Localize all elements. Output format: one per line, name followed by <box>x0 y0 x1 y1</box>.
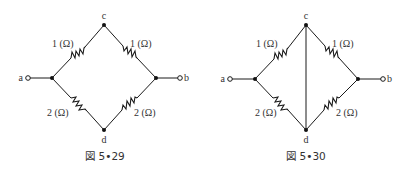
label-r-db: 2 (Ω) <box>336 107 358 119</box>
resistor-db <box>104 78 156 130</box>
figure-5-30: c a b d 1 (Ω) 1 (Ω) 2 (Ω) 2 (Ω) 図 5•30 <box>221 10 392 162</box>
resistor-db <box>306 79 358 130</box>
node-left <box>50 76 54 80</box>
resistor-cb <box>306 25 358 79</box>
label-r-cb: 1 (Ω) <box>332 38 354 50</box>
label-r-ad: 2 (Ω) <box>255 107 277 119</box>
label-d: d <box>304 134 309 145</box>
label-d: d <box>102 134 107 145</box>
resistor-cb <box>104 25 156 78</box>
label-b: b <box>387 73 392 84</box>
label-r-db: 2 (Ω) <box>134 107 156 119</box>
terminal-b <box>178 76 183 81</box>
figure-caption: 図 5•29 <box>85 150 125 162</box>
resistor-ad <box>52 78 104 130</box>
figure-caption: 図 5•30 <box>286 150 326 162</box>
label-c: c <box>102 10 107 21</box>
terminal-a <box>228 77 233 82</box>
label-a: a <box>19 72 24 83</box>
node-left <box>253 77 257 81</box>
label-r-ac: 1 (Ω) <box>52 38 74 50</box>
resistor-ac <box>255 25 306 79</box>
node-c <box>102 23 106 27</box>
resistor-ad <box>255 79 306 130</box>
terminal-a <box>26 76 31 81</box>
resistor-ac <box>52 25 104 78</box>
label-b: b <box>184 72 189 83</box>
label-a: a <box>221 73 226 84</box>
node-d <box>304 128 308 132</box>
label-c: c <box>304 10 309 21</box>
node-c <box>304 23 308 27</box>
terminal-b <box>381 77 386 82</box>
node-d <box>102 128 106 132</box>
figure-5-29: c a b d 1 (Ω) 1 (Ω) 2 (Ω) 2 (Ω) 図 5•29 <box>19 10 189 162</box>
label-r-ac: 1 (Ω) <box>256 38 278 50</box>
node-right <box>154 76 158 80</box>
label-r-ad: 2 (Ω) <box>47 107 69 119</box>
circuit-diagrams: c a b d 1 (Ω) 1 (Ω) 2 (Ω) 2 (Ω) 図 5•29 <box>0 0 406 170</box>
node-right <box>356 77 360 81</box>
label-r-cb: 1 (Ω) <box>130 38 152 50</box>
